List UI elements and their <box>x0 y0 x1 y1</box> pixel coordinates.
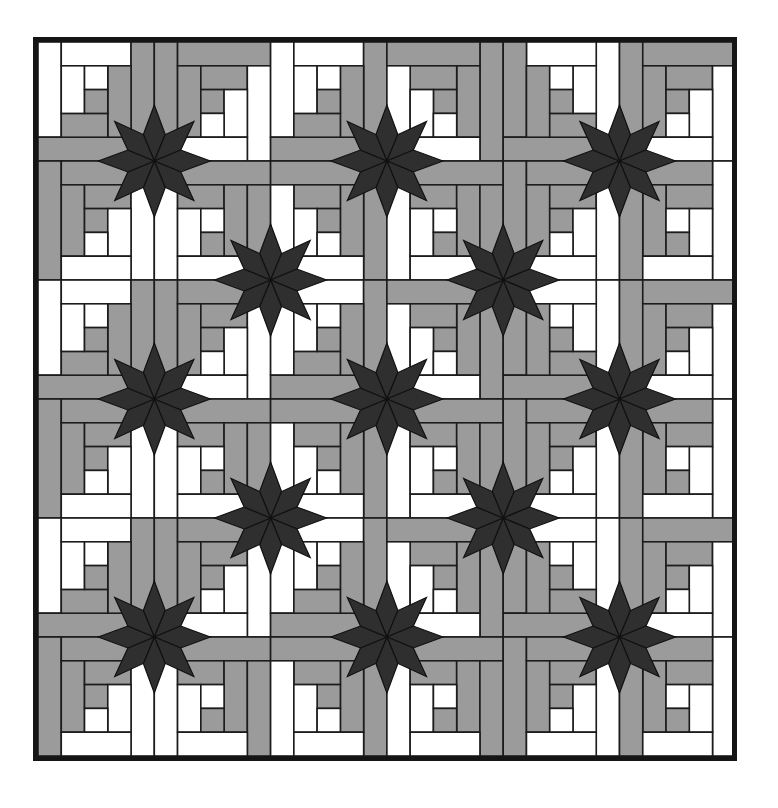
log-strip <box>85 328 108 352</box>
star <box>98 105 210 217</box>
log-strip <box>666 661 713 685</box>
log-strip <box>410 685 433 733</box>
log-strip <box>480 42 503 161</box>
log-strip <box>61 280 131 304</box>
log-strip <box>666 589 689 613</box>
log-strip <box>410 66 457 90</box>
log-strip <box>573 447 596 495</box>
log-strip <box>317 304 340 328</box>
log-strip <box>643 42 736 66</box>
star <box>215 224 327 336</box>
log-strip <box>294 113 341 137</box>
log-strip <box>550 470 573 494</box>
log-strip <box>201 90 224 114</box>
log-strip <box>178 209 201 257</box>
log-strip <box>294 661 341 685</box>
log-strip <box>433 209 456 233</box>
log-strip <box>526 42 596 66</box>
star <box>331 581 443 693</box>
log-strip <box>85 566 108 590</box>
stars-layer <box>98 105 675 693</box>
log-strip <box>178 685 201 733</box>
log-strip <box>294 732 364 756</box>
log-strip <box>38 280 61 375</box>
log-strip <box>433 351 456 375</box>
star <box>98 581 210 693</box>
log-strip <box>643 732 713 756</box>
log-strip <box>294 42 364 66</box>
log-strip <box>666 423 713 447</box>
star <box>564 105 676 217</box>
log-strip <box>666 351 689 375</box>
log-strip <box>387 42 480 66</box>
log-strip <box>108 685 131 733</box>
log-strip <box>317 566 340 590</box>
log-strip <box>317 542 340 566</box>
log-strip <box>294 685 317 733</box>
log-strip <box>573 209 596 257</box>
log-strip <box>61 185 84 256</box>
log-strip <box>201 209 224 233</box>
log-strip <box>550 232 573 256</box>
log-strip <box>666 447 689 471</box>
log-strip <box>294 185 341 209</box>
quilt-image <box>33 37 737 761</box>
log-strip <box>433 708 456 732</box>
log-strip <box>38 42 61 137</box>
log-strip <box>61 518 131 542</box>
log-strip <box>85 470 108 494</box>
log-strip <box>503 42 526 137</box>
log-strip <box>317 66 340 90</box>
log-strip <box>433 589 456 613</box>
log-strip <box>666 185 713 209</box>
log-strip <box>433 113 456 137</box>
log-strip <box>294 66 317 114</box>
log-strip <box>433 90 456 114</box>
log-strip <box>61 113 108 137</box>
log-strip <box>85 542 108 566</box>
log-strip <box>201 470 224 494</box>
log-strip <box>410 447 433 495</box>
log-strip <box>108 209 131 257</box>
log-strip <box>201 708 224 732</box>
log-strip <box>201 232 224 256</box>
log-strip <box>178 732 248 756</box>
log-strip <box>317 708 340 732</box>
log-strip <box>201 328 224 352</box>
log-strip <box>85 66 108 90</box>
log-strip <box>643 494 713 518</box>
log-strip <box>689 328 712 376</box>
log-strip <box>410 732 480 756</box>
log-strip <box>61 542 84 590</box>
star <box>564 581 676 693</box>
log-strip <box>643 518 736 542</box>
log-strip <box>61 351 108 375</box>
log-strip <box>247 661 270 756</box>
log-strip <box>224 90 247 138</box>
log-strip <box>271 42 294 137</box>
log-strip <box>85 685 108 709</box>
log-strip <box>317 470 340 494</box>
log-strip <box>247 66 270 161</box>
log-strip <box>689 209 712 257</box>
log-strip <box>85 447 108 471</box>
log-strip <box>666 90 689 114</box>
log-strip <box>666 66 713 90</box>
log-strip <box>666 685 689 709</box>
log-strip <box>38 518 61 613</box>
log-strip <box>85 232 108 256</box>
log-strip <box>61 42 131 66</box>
log-strip <box>85 708 108 732</box>
quilt-svg <box>33 37 737 761</box>
star <box>447 462 559 574</box>
log-strip <box>201 589 224 613</box>
log-strip <box>108 447 131 495</box>
log-strip <box>61 589 108 613</box>
log-strip <box>61 304 84 352</box>
log-strip <box>643 280 736 304</box>
log-strip <box>178 42 271 66</box>
log-strip <box>433 566 456 590</box>
star <box>331 343 443 455</box>
star <box>564 343 676 455</box>
log-strip <box>666 542 713 566</box>
